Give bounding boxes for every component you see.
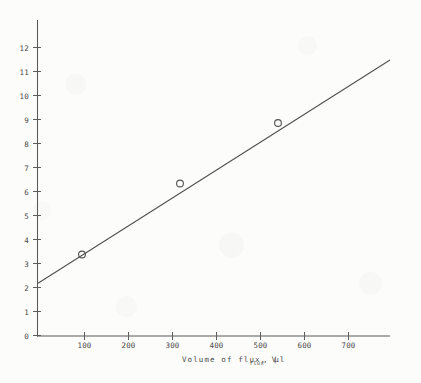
y-tick-label-1: 1	[24, 308, 29, 317]
y-tick-label-12: 12	[20, 44, 29, 53]
x-tick-label-200: 200	[121, 341, 135, 350]
x-axis-title-trail: , µl	[263, 355, 285, 364]
data-point-2	[177, 180, 184, 187]
scatter-plot: 0 1 2 3 4 5 6 7 8 9 10 11 12 100 20	[0, 0, 421, 383]
data-point-markers	[79, 120, 282, 258]
x-tick-label-100: 100	[77, 341, 91, 350]
x-tick-label-500: 500	[253, 341, 267, 350]
y-tick-label-3: 3	[24, 260, 29, 269]
x-tick-label-400: 400	[209, 341, 223, 350]
y-tick-label-8: 8	[24, 140, 29, 149]
linear-fit-line	[38, 60, 390, 283]
x-tick-label-600: 600	[297, 341, 311, 350]
y-tick-label-10: 10	[20, 92, 30, 101]
x-tick-label-300: 300	[165, 341, 179, 350]
x-tick-label-700: 700	[341, 341, 355, 350]
y-tick-label-9: 9	[24, 116, 29, 125]
data-point-1	[79, 251, 86, 258]
y-tick-label-11: 11	[20, 68, 29, 77]
y-tick-label-2: 2	[24, 284, 29, 293]
x-axis-title: Volume of flux, V flux , µl	[182, 355, 285, 366]
figure-canvas: 0 1 2 3 4 5 6 7 8 9 10 11 12 100 20	[0, 0, 421, 383]
axes-group	[37, 20, 390, 337]
y-tick-label-6: 6	[24, 188, 29, 197]
y-tick-label-0: 0	[24, 332, 29, 341]
y-axis-tick-labels: 0 1 2 3 4 5 6 7 8 9 10 11 12	[20, 44, 30, 341]
data-point-3	[275, 120, 282, 127]
y-tick-label-4: 4	[24, 236, 29, 245]
x-axis-tick-labels: 100 200 300 400 500 600 700	[77, 341, 355, 350]
y-tick-label-7: 7	[24, 164, 29, 173]
y-tick-label-5: 5	[24, 212, 29, 221]
